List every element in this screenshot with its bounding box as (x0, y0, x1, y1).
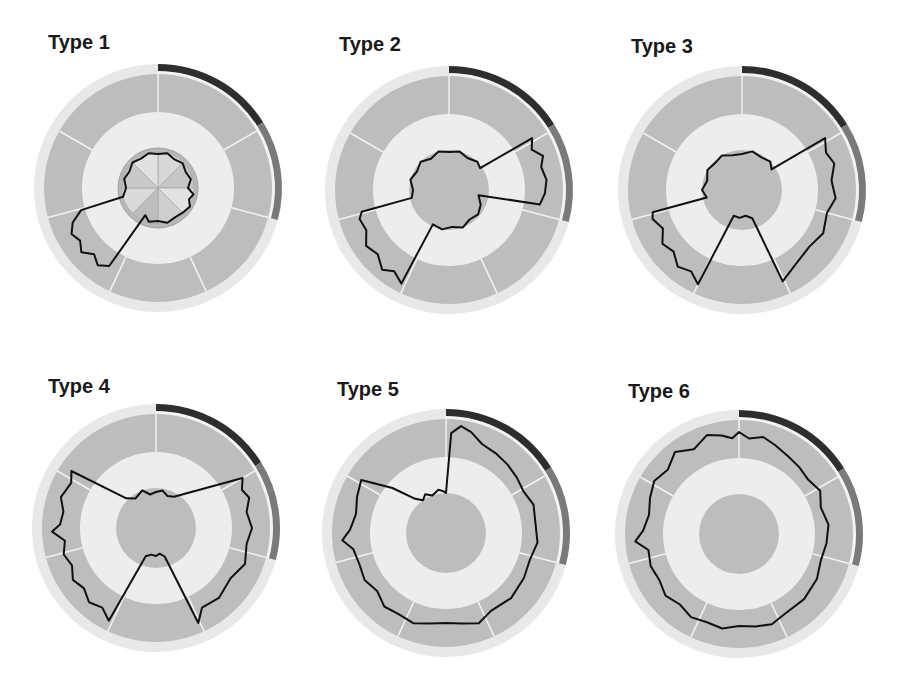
inner-disc (699, 494, 779, 574)
radial-chart-6 (0, 0, 910, 689)
